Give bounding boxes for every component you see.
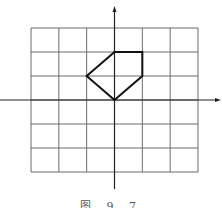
x-axis-arrow-icon [215, 98, 221, 102]
y-axis-arrow-icon [113, 6, 117, 12]
figure-caption: 图 9.7 [0, 197, 222, 208]
coordinate-grid-diagram [0, 0, 222, 208]
